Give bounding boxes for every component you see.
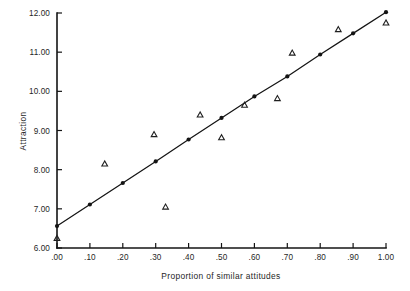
y-tick-label: 6.00 xyxy=(34,244,51,253)
predicted-point-marker xyxy=(351,31,355,35)
predicted-point-marker xyxy=(219,116,223,120)
observed-point-marker xyxy=(151,132,157,137)
observed-point-marker xyxy=(163,204,169,209)
y-tick-label: 12.00 xyxy=(29,9,50,18)
y-tick-label: 11.00 xyxy=(30,48,51,57)
y-tick-label: 8.00 xyxy=(34,166,51,175)
x-tick-label: .20 xyxy=(117,253,129,262)
axes-group xyxy=(57,13,386,248)
x-tick-label: .80 xyxy=(314,253,326,262)
scatter-plot-figure: 6.007.008.009.0010.0011.0012.00 .00.10.2… xyxy=(0,0,410,291)
predicted-point-marker xyxy=(384,10,388,14)
predicted-point-marker xyxy=(88,202,92,206)
observed-point-markers xyxy=(54,20,389,240)
x-tick-label: .30 xyxy=(150,253,162,262)
observed-point-marker xyxy=(335,27,341,32)
x-tick-label: .90 xyxy=(347,253,359,262)
y-tick-label: 9.00 xyxy=(34,127,51,136)
observed-point-marker xyxy=(289,50,295,55)
x-axis-title: Proportion of similar attitudes xyxy=(161,271,280,281)
observed-point-marker xyxy=(275,96,281,101)
observed-point-marker xyxy=(242,102,248,107)
predicted-point-marker xyxy=(187,137,191,141)
predicted-point-marker xyxy=(154,159,158,163)
x-tick-label: .40 xyxy=(183,253,195,262)
x-tick-label: .60 xyxy=(249,253,261,262)
predicted-point-marker xyxy=(285,74,289,78)
predicted-point-marker xyxy=(121,181,125,185)
y-axis-title: Attraction xyxy=(18,112,28,151)
predicted-point-marker xyxy=(318,52,322,56)
y-axis-tick-labels: 6.007.008.009.0010.0011.0012.00 xyxy=(29,9,50,253)
x-tick-label: .70 xyxy=(281,253,293,262)
observed-point-marker xyxy=(102,161,108,166)
predicted-point-marker xyxy=(252,94,256,98)
observed-point-marker xyxy=(383,20,389,25)
predicted-point-marker xyxy=(55,224,59,228)
observed-point-marker xyxy=(197,112,203,117)
y-tick-label: 10.00 xyxy=(29,87,50,96)
observed-point-marker xyxy=(219,135,225,140)
x-tick-label: .00 xyxy=(51,253,63,262)
x-tick-label: 1.00 xyxy=(378,253,395,262)
x-axis-tick-labels: .00.10.20.30.40.50.60.70.80.901.00 xyxy=(51,253,394,262)
x-tick-label: .50 xyxy=(216,253,228,262)
plot-canvas: 6.007.008.009.0010.0011.0012.00 .00.10.2… xyxy=(0,0,410,291)
x-tick-label: .10 xyxy=(84,253,96,262)
y-tick-label: 7.00 xyxy=(34,205,51,214)
